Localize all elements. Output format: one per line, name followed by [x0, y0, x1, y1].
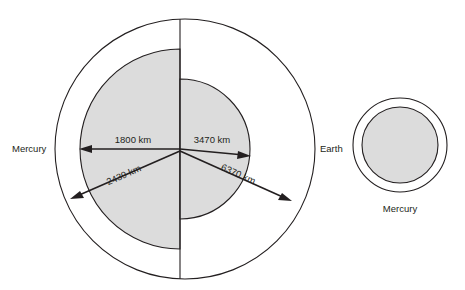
inset-caption-mercury: Mercury	[383, 203, 418, 214]
dimension-label-3470km: 3470 km	[194, 134, 231, 145]
planet-cross-section-diagram: 1800 km 3470 km 2439 km 6370 km Mer	[0, 0, 465, 290]
figure-root: 1800 km 3470 km 2439 km 6370 km Mer	[0, 0, 465, 290]
dimension-label-1800km: 1800 km	[115, 134, 152, 145]
main-diagram-group: 1800 km 3470 km 2439 km 6370 km Mer	[12, 19, 343, 279]
inset-mercury-group: Mercury	[353, 98, 447, 214]
inset-mercury-core-circle	[362, 107, 438, 183]
side-label-earth: Earth	[320, 143, 343, 154]
side-label-mercury: Mercury	[12, 143, 47, 154]
